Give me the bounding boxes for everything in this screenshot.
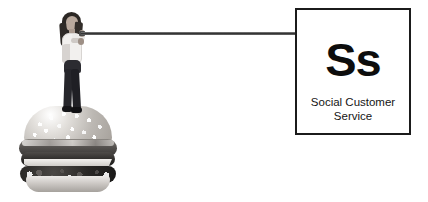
burger-bottom-bun — [26, 176, 110, 192]
element-name-line-1: Social Customer — [301, 96, 405, 110]
figure-shoe-right — [71, 107, 82, 113]
woman-figure — [50, 10, 94, 115]
pointer-rod — [81, 32, 296, 35]
hamburger-illustration — [18, 106, 118, 192]
burger-lettuce-highlight — [22, 140, 114, 146]
element-name: Social Customer Service — [301, 96, 405, 123]
element-card: Ss Social Customer Service — [295, 8, 411, 135]
element-name-line-2: Service — [301, 110, 405, 124]
figure-hand-lower — [78, 38, 84, 45]
figure-leg-right — [71, 69, 81, 110]
illustration-canvas: Ss Social Customer Service — [0, 0, 428, 202]
element-symbol: Ss — [325, 36, 381, 83]
